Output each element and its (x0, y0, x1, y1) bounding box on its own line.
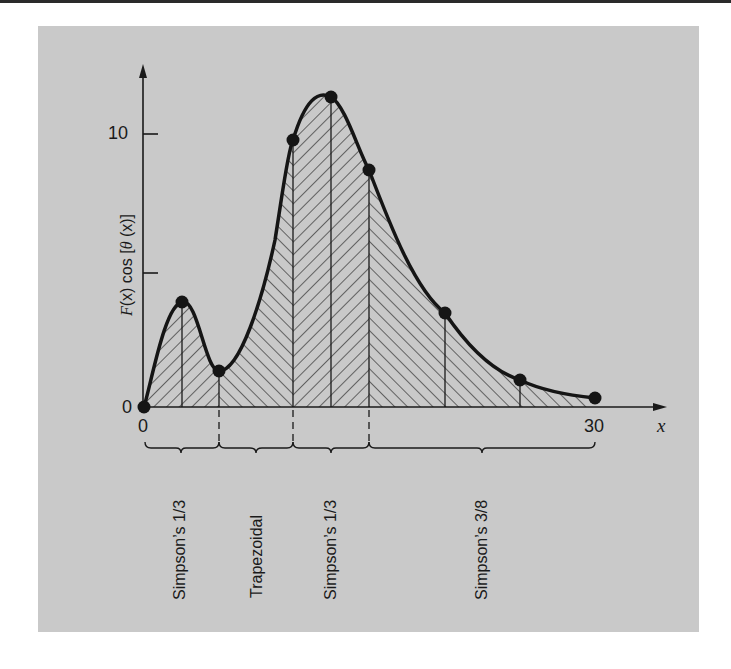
segment-label-simpson13-a: Simpson’s 1/3 (171, 500, 189, 600)
segment-label-simpson13-b: Simpson’s 1/3 (322, 500, 340, 600)
y-axis-arrow-icon (139, 64, 147, 78)
segment-label-simpson38: Simpson’s 3/8 (473, 500, 491, 600)
x-axis-label: x (657, 415, 665, 437)
hatched-area (144, 60, 595, 408)
y-tick-label-10: 10 (108, 123, 128, 144)
x-axis-arrow-icon (653, 403, 667, 411)
y-axis-label: F(x) cos [θ (x)] (118, 214, 136, 316)
y-tick-label-0: 0 (122, 397, 132, 418)
chart-plot (0, 0, 731, 669)
x-tick-label-0: 0 (138, 416, 148, 437)
x-tick-label-30: 30 (584, 416, 604, 437)
segment-braces (145, 442, 595, 453)
hatch-trapezoidal (219, 60, 293, 408)
segment-label-trapezoidal: Trapezoidal (248, 515, 266, 598)
segment-dividers (219, 410, 369, 446)
